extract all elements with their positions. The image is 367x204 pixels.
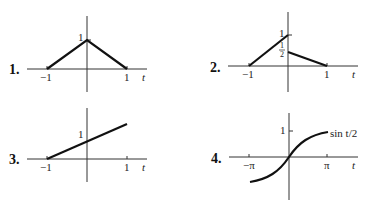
x-tick-label-pos: 1	[324, 68, 330, 80]
graph-3: 3. 1 −1 1 t	[9, 108, 147, 182]
x-axis-label: t	[352, 68, 356, 80]
curve-label: sin t/2	[330, 127, 357, 139]
graph-2: 2. 1 1 2 −1 1 t	[210, 12, 358, 92]
y-tick-label: 1	[78, 31, 84, 43]
x-axis-label: t	[142, 161, 146, 173]
graph-number: 2.	[210, 60, 221, 75]
x-tick-label-neg: −π	[243, 159, 255, 171]
graph-4: 4. 1 −π π t sin t/2	[211, 113, 358, 200]
x-tick-label-neg: −1	[40, 71, 52, 83]
x-tick-label-pos: 1	[124, 71, 130, 83]
graph-2-segment-2	[288, 52, 327, 66]
y-half-numerator: 1	[280, 41, 284, 50]
x-tick-label-pos: π	[324, 159, 330, 171]
graph-number: 3.	[9, 152, 20, 167]
x-axis-label: t	[142, 71, 146, 83]
graph-number: 1.	[9, 62, 20, 77]
graph-number: 4.	[211, 151, 222, 166]
graph-1: 1. 1 −1 1 t	[9, 16, 147, 92]
y-tick-label: 1	[280, 124, 286, 136]
y-tick-label: 1	[78, 128, 84, 140]
figure-canvas: 1. 1 −1 1 t 2. 1 1 2 −1 1 t 3. 1 −1 1 t	[0, 0, 367, 204]
x-tick-label-neg: −1	[242, 68, 254, 80]
x-tick-label-pos: 1	[124, 161, 130, 173]
x-axis-label: t	[352, 159, 356, 171]
y-half-denominator: 2	[280, 50, 284, 59]
x-tick-label-neg: −1	[40, 161, 52, 173]
y-tick-label: 1	[279, 27, 285, 39]
